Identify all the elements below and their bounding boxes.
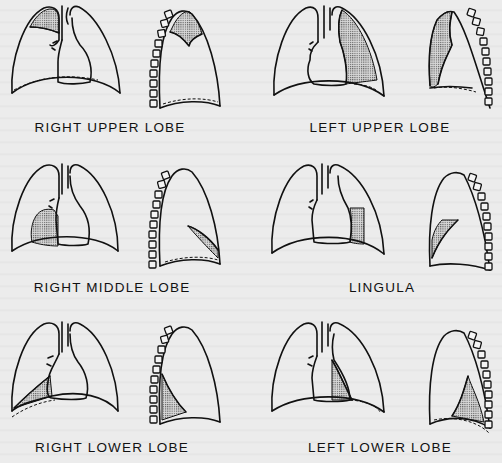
lateral-view (149, 169, 220, 268)
label-right-upper-lobe: RIGHT UPPER LOBE (35, 120, 186, 135)
frontal-view (12, 6, 120, 93)
label-right-middle-lobe: RIGHT MIDDLE LOBE (34, 280, 191, 295)
panel-left-upper-lobe (274, 6, 492, 108)
lateral-view (429, 8, 492, 108)
frontal-view (274, 6, 384, 96)
label-left-upper-lobe: LEFT UPPER LOBE (310, 120, 451, 135)
frontal-view (12, 322, 118, 417)
frontal-view (272, 164, 384, 254)
panel-right-lower-lobe (12, 322, 220, 424)
lateral-view (430, 331, 492, 434)
panel-lingula (272, 164, 492, 270)
label-right-lower-lobe: RIGHT LOWER LOBE (35, 440, 189, 455)
lateral-view (430, 173, 492, 270)
panel-left-lower-lobe (272, 322, 492, 434)
lung-lobes-diagram (0, 0, 502, 463)
ribs-spine-icon (150, 10, 173, 107)
frontal-view (272, 322, 384, 412)
lateral-view (150, 326, 220, 424)
label-lingula: LINGULA (349, 280, 415, 295)
frontal-view (12, 164, 118, 251)
lateral-view (150, 10, 220, 108)
panel-right-middle-lobe (12, 164, 220, 268)
panel-right-upper-lobe (12, 6, 220, 108)
ribs-spine-icon (468, 173, 492, 270)
label-left-lower-lobe: LEFT LOWER LOBE (308, 440, 452, 455)
